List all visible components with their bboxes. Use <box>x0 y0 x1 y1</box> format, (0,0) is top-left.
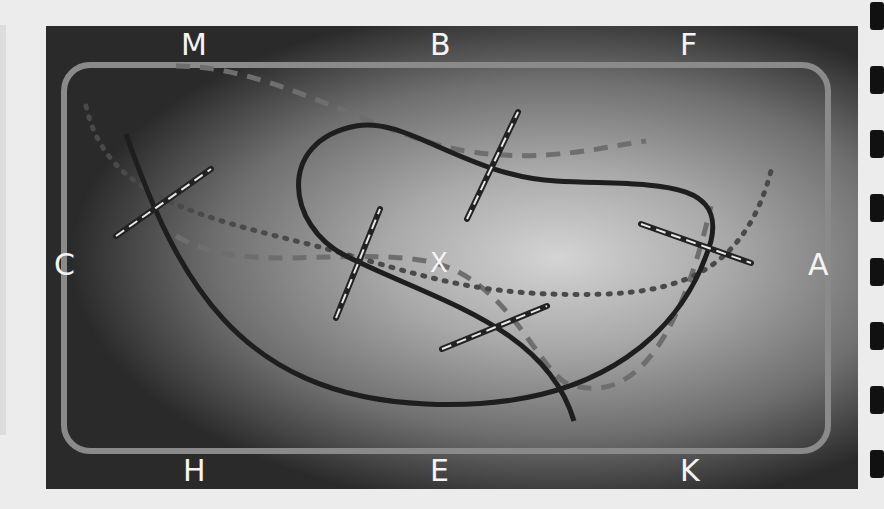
side-tick-8 <box>870 450 884 478</box>
side-tick-1 <box>870 2 884 30</box>
diagram-canvas: M B F C A X H E K <box>46 26 858 489</box>
label-a: A <box>808 250 829 280</box>
label-f: F <box>680 30 697 60</box>
label-b: B <box>430 30 451 60</box>
side-tick-6 <box>870 322 884 350</box>
side-tick-5 <box>870 258 884 286</box>
ruler-2 <box>336 209 380 318</box>
label-k: K <box>680 456 700 486</box>
label-x-center: X <box>430 248 448 278</box>
label-e: E <box>430 456 449 486</box>
side-tick-7 <box>870 386 884 414</box>
label-h: H <box>183 456 206 486</box>
side-tick-2 <box>870 66 884 94</box>
label-c: C <box>54 250 75 280</box>
ruler-3 <box>467 112 518 219</box>
diagram-svg <box>46 26 858 489</box>
label-m: M <box>181 30 207 60</box>
dashed-curve-top <box>176 66 646 156</box>
side-tick-3 <box>870 130 884 158</box>
side-tick-4 <box>870 194 884 222</box>
dotted-curve <box>86 106 771 294</box>
left-edge-strip <box>0 25 6 435</box>
